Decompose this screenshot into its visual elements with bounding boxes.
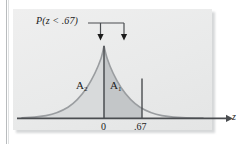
shaded-area-a2 — [22, 46, 104, 118]
axis-tick-label-zero: 0 — [101, 122, 106, 132]
probability-annotation-label: P(z < .67) — [36, 16, 78, 26]
area-label-a2-base: A — [76, 79, 84, 91]
callout-right-arrowhead — [121, 34, 127, 41]
area-label-a1-subscript: 1 — [118, 85, 122, 93]
area-label-a1-base: A — [110, 79, 118, 91]
figure-container: P(z < .67) A2 A1 0 .67 z — [0, 0, 245, 144]
callout-left-arrowhead — [97, 34, 103, 41]
area-label-a1: A1 — [110, 80, 121, 91]
area-label-a2: A2 — [76, 80, 87, 91]
axis-tick-label-067: .67 — [134, 122, 147, 132]
z-axis-label: z — [232, 112, 236, 122]
area-label-a2-subscript: 2 — [84, 85, 88, 93]
